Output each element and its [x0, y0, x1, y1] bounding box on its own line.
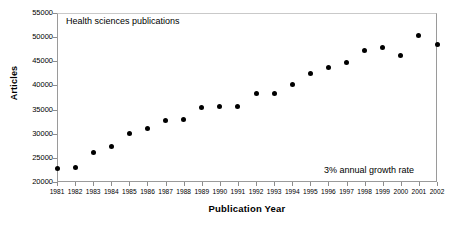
- x-tick-mark: [147, 182, 148, 186]
- data-point: [380, 45, 385, 50]
- y-tick-label: 20000: [3, 178, 53, 186]
- x-tick-label: 1992: [249, 188, 264, 196]
- y-tick-label: 45000: [3, 57, 53, 65]
- growth-rate-annotation: 3% annual growth rate: [324, 165, 414, 175]
- x-tick-label: 1995: [303, 188, 318, 196]
- x-tick-mark: [401, 182, 402, 186]
- x-axis-title: Publication Year: [57, 203, 437, 214]
- data-point: [344, 60, 349, 65]
- x-tick-label: 1987: [158, 188, 173, 196]
- data-point: [181, 117, 186, 122]
- x-tick-mark: [184, 182, 185, 186]
- x-tick-label: 1988: [176, 188, 191, 196]
- scatter-chart: Articles 2000025000300003500040000450005…: [0, 0, 454, 225]
- x-tick-mark: [419, 182, 420, 186]
- x-tick-mark: [437, 182, 438, 186]
- y-tick-mark: [53, 110, 57, 111]
- x-tick-label: 1999: [375, 188, 390, 196]
- x-tick-label: 1989: [194, 188, 209, 196]
- data-point: [290, 82, 295, 87]
- x-tick-mark: [256, 182, 257, 186]
- x-tick-label: 2002: [430, 188, 445, 196]
- x-tick-mark: [93, 182, 94, 186]
- series-label-annotation: Health sciences publications: [66, 16, 180, 26]
- y-tick-mark: [53, 61, 57, 62]
- data-point: [326, 65, 331, 70]
- y-tick-label: 25000: [3, 154, 53, 162]
- x-tick-label: 1997: [339, 188, 354, 196]
- x-tick-mark: [328, 182, 329, 186]
- y-tick-label: 35000: [3, 106, 53, 114]
- x-tick-mark: [75, 182, 76, 186]
- x-tick-label: 1981: [50, 188, 65, 196]
- y-tick-mark: [53, 158, 57, 159]
- y-tick-mark: [53, 37, 57, 38]
- plot-area: 2000025000300003500040000450005000055000…: [57, 13, 437, 182]
- x-tick-label: 2000: [393, 188, 408, 196]
- data-point: [199, 105, 204, 110]
- data-point: [145, 126, 150, 131]
- x-tick-mark: [347, 182, 348, 186]
- x-tick-mark: [129, 182, 130, 186]
- y-tick-mark: [53, 134, 57, 135]
- x-tick-label: 1990: [213, 188, 228, 196]
- x-tick-mark: [57, 182, 58, 186]
- data-point: [91, 150, 96, 155]
- data-point: [416, 33, 421, 38]
- data-point: [398, 53, 403, 58]
- y-tick-mark: [53, 85, 57, 86]
- y-tick-label: 30000: [3, 130, 53, 138]
- x-tick-mark: [383, 182, 384, 186]
- data-point: [217, 104, 222, 109]
- x-tick-label: 1985: [122, 188, 137, 196]
- x-tick-label: 1993: [267, 188, 282, 196]
- data-point: [254, 91, 259, 96]
- data-point: [435, 42, 440, 47]
- x-tick-mark: [202, 182, 203, 186]
- x-tick-label: 1986: [140, 188, 155, 196]
- y-tick-label: 55000: [3, 9, 53, 17]
- x-tick-mark: [365, 182, 366, 186]
- x-tick-mark: [166, 182, 167, 186]
- y-tick-label: 50000: [3, 33, 53, 41]
- x-tick-mark: [238, 182, 239, 186]
- x-tick-label: 1982: [68, 188, 83, 196]
- x-tick-mark: [111, 182, 112, 186]
- data-point: [272, 91, 277, 96]
- x-tick-label: 1998: [357, 188, 372, 196]
- data-point: [109, 144, 114, 149]
- y-tick-mark: [53, 13, 57, 14]
- x-tick-label: 1994: [285, 188, 300, 196]
- x-tick-label: 2001: [412, 188, 427, 196]
- x-tick-label: 1991: [231, 188, 246, 196]
- x-tick-mark: [274, 182, 275, 186]
- data-point: [55, 166, 60, 171]
- x-tick-label: 1996: [321, 188, 336, 196]
- x-tick-label: 1983: [86, 188, 101, 196]
- data-point: [362, 48, 367, 53]
- y-tick-label: 40000: [3, 81, 53, 89]
- data-point: [235, 104, 240, 109]
- data-point: [308, 71, 313, 76]
- x-tick-mark: [292, 182, 293, 186]
- data-point: [163, 118, 168, 123]
- x-tick-label: 1984: [104, 188, 119, 196]
- x-tick-mark: [220, 182, 221, 186]
- x-tick-mark: [310, 182, 311, 186]
- data-point: [127, 131, 132, 136]
- data-point: [73, 165, 78, 170]
